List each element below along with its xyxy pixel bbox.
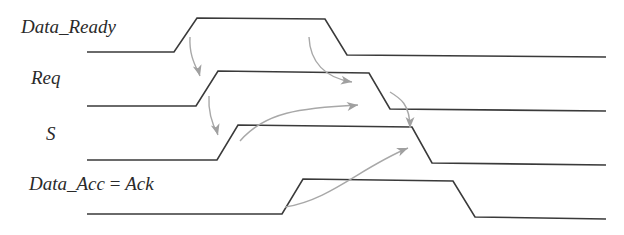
waveform-data-ready xyxy=(87,18,606,57)
label-part-ack: Ack xyxy=(123,173,154,194)
waveform-s xyxy=(87,125,606,165)
arrowhead-icon xyxy=(211,123,223,136)
causal-arrow xyxy=(285,148,408,207)
waveform-data-acc xyxy=(87,179,606,219)
signal-label-req: Req xyxy=(30,67,61,88)
timing-diagram: Data_Ready Req S Data_Acc = Ack xyxy=(0,0,624,235)
label-part-equals: = xyxy=(105,173,125,194)
arrowhead-icon xyxy=(340,76,352,87)
signal-label-data-ready: Data_Ready xyxy=(20,16,117,37)
signal-label-data-acc-ack: Data_Acc = Ack xyxy=(28,173,154,194)
arrowhead-icon xyxy=(396,144,410,156)
waveforms xyxy=(87,18,606,219)
arrowhead-icon xyxy=(193,64,205,77)
label-part-data-acc: Data_Acc xyxy=(28,173,106,194)
causal-arrow xyxy=(309,37,352,82)
causal-arrow xyxy=(240,105,358,141)
causal-arrow xyxy=(390,92,410,128)
signal-labels: Data_Ready Req S Data_Acc = Ack xyxy=(20,16,154,194)
signal-label-s: S xyxy=(46,123,56,144)
